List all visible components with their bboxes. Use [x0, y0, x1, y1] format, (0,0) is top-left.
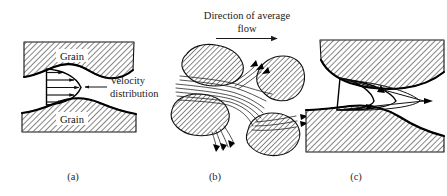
panel-b-grain-bottom-right — [246, 113, 299, 156]
panel-b-grain-2-body — [257, 56, 305, 101]
panel-a-upper-label-text: Grain — [60, 51, 85, 62]
panel-c-upper-grain-body — [320, 40, 444, 89]
panel-b-arrowhead-ll-1 — [213, 144, 220, 152]
panel-b-arrowhead-ur-1 — [250, 60, 258, 67]
panel-a-lower-grain-label: Grain — [56, 112, 88, 125]
panel-b-arrowhead-ll-2 — [220, 143, 227, 151]
velocity-annotation-line1: Velocity — [110, 75, 146, 86]
panel-c-inlet-axis — [337, 78, 340, 110]
panel-c-caption: (c) — [350, 171, 362, 183]
panel-c-arrowhead-tip — [424, 98, 433, 104]
panel-a-caption: (a) — [67, 171, 79, 183]
panel-b: (b) — [171, 44, 308, 183]
panel-b-arrowhead-ll-3 — [228, 140, 235, 148]
flow-direction-header: Direction of average flow — [204, 10, 291, 39]
flow-direction-title-line1: Direction of average — [204, 10, 291, 21]
panel-b-caption: (b) — [209, 171, 222, 183]
panel-c: (c) — [306, 40, 444, 183]
panel-b-arrowheads-lower-left — [213, 140, 235, 152]
velocity-distribution-annotation: Velocity distribution — [85, 75, 159, 99]
panel-a: Grain Grain Velocity distribution (a) — [22, 42, 159, 183]
panel-b-grain-right-upper — [257, 56, 305, 101]
panel-c-lower-grain — [306, 105, 444, 152]
panel-c-upper-grain — [320, 40, 444, 89]
panel-a-upper-grain-label: Grain — [56, 49, 88, 62]
panel-a-lower-label-text: Grain — [60, 114, 85, 125]
flow-direction-title-line2: flow — [237, 23, 257, 34]
porous-flow-diagram: Direction of average flow — [0, 0, 447, 196]
figure-container: Direction of average flow — [0, 0, 447, 196]
velocity-annotation-line2: distribution — [110, 88, 159, 99]
panel-b-grain-4-body — [246, 113, 299, 156]
